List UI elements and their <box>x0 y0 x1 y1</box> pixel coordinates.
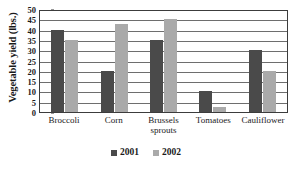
bar-2002 <box>263 71 276 112</box>
x-axis-label: Corn <box>89 115 139 135</box>
bar-2002 <box>115 24 128 112</box>
y-tick-label: 5 <box>14 98 36 107</box>
y-axis-tick-labels: 50454035302520151050 <box>14 10 36 113</box>
legend-item: 2002 <box>153 148 181 158</box>
bar-group <box>139 11 188 112</box>
y-tick-label: 50 <box>14 6 36 15</box>
x-axis-label: Tomatoes <box>188 115 238 135</box>
x-axis-label: Cauliflower <box>238 115 288 135</box>
bar-group <box>89 11 138 112</box>
bar-groups <box>40 11 287 112</box>
bar-2001 <box>249 50 262 112</box>
bar-group <box>188 11 237 112</box>
bar-2002 <box>65 40 78 112</box>
legend-item: 2001 <box>111 148 139 158</box>
x-axis-category-labels: BroccoliCornBrusselssproutsTomatoesCauli… <box>39 115 288 135</box>
x-axis-label: Broccoli <box>39 115 89 135</box>
plot-area <box>39 10 288 113</box>
y-tick-label: 40 <box>14 26 36 35</box>
legend-swatch-icon <box>111 150 117 156</box>
chart-legend: 20012002 <box>0 148 292 158</box>
bar-2001 <box>199 91 212 112</box>
x-axis-label-line: Broccoli <box>48 115 79 125</box>
bar-2002 <box>213 107 226 112</box>
bar-2001 <box>150 40 163 112</box>
y-tick-label: 15 <box>14 78 36 87</box>
y-tick-label: 45 <box>14 16 36 25</box>
bar-2002 <box>164 19 177 112</box>
y-tick-label: 10 <box>14 88 36 97</box>
x-axis-label-line: Cauliflower <box>242 115 285 125</box>
x-axis-label: Brusselssprouts <box>139 115 189 135</box>
y-tick-label: 20 <box>14 68 36 77</box>
legend-swatch-icon <box>153 150 159 156</box>
x-axis-label-line: Tomatoes <box>196 115 231 125</box>
x-axis-label-line: sprouts <box>139 125 189 135</box>
bar-group <box>40 11 89 112</box>
legend-label: 2001 <box>120 148 139 158</box>
x-axis-label-line: Brussels <box>148 115 179 125</box>
bar-2001 <box>51 30 64 112</box>
y-tick-label: 25 <box>14 57 36 66</box>
bar-group <box>238 11 287 112</box>
y-tick-label: 35 <box>14 37 36 46</box>
y-tick-label: 30 <box>14 47 36 56</box>
x-axis-label-line: Corn <box>105 115 123 125</box>
y-tick-label: 0 <box>14 109 36 118</box>
legend-label: 2002 <box>162 148 181 158</box>
vegetable-yield-bar-chart: Vegetable yield (lbs.) 50454035302520151… <box>0 0 292 171</box>
bar-2001 <box>101 71 114 112</box>
